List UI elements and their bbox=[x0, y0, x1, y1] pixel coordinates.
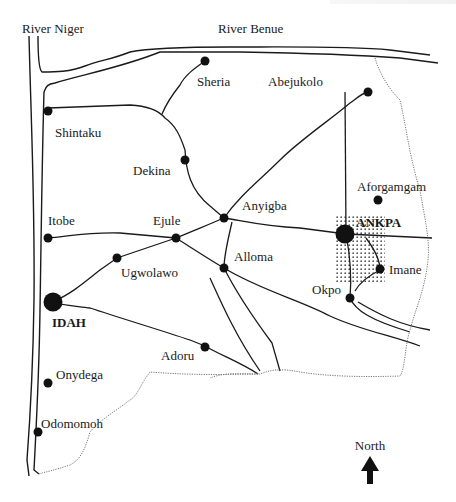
town-dot-adoru bbox=[201, 343, 210, 352]
town-label-alloma: Alloma bbox=[234, 250, 273, 263]
town-label-onydega: Onydega bbox=[56, 368, 103, 381]
town-label-anyigba: Anyigba bbox=[242, 199, 287, 212]
town-label-itobe: Itobe bbox=[48, 214, 75, 227]
town-dot-abejukolo bbox=[364, 88, 373, 97]
town-dot-shintaku bbox=[44, 107, 53, 116]
north-compass: North bbox=[352, 438, 388, 488]
river-niger-label: River Niger bbox=[22, 22, 84, 35]
town-label-abejukolo: Abejukolo bbox=[268, 75, 323, 88]
town-dot-itobe bbox=[44, 234, 53, 243]
town-dot-ejule bbox=[172, 234, 181, 243]
town-dot-anyigba bbox=[220, 214, 229, 223]
town-label-ankpa: ANKPA bbox=[356, 216, 401, 229]
town-label-odomomoh: Odomomoh bbox=[41, 417, 103, 430]
town-dot-okpo bbox=[346, 294, 355, 303]
town-dot-idah bbox=[44, 293, 63, 312]
town-label-idah: IDAH bbox=[52, 316, 86, 329]
town-dot-onydega bbox=[44, 379, 53, 388]
town-dot-dekina bbox=[181, 156, 190, 165]
town-dot-ugwolawo bbox=[113, 254, 122, 263]
town-dot-ankpa bbox=[336, 225, 355, 244]
town-label-ugwolawo: Ugwolawo bbox=[121, 266, 178, 279]
town-label-shintaku: Shintaku bbox=[55, 126, 101, 139]
town-label-dekina: Dekina bbox=[133, 164, 171, 177]
town-label-aforgamgam: Aforgamgam bbox=[357, 180, 426, 193]
north-label: North bbox=[352, 438, 388, 454]
town-dot-aforgamgam bbox=[374, 196, 383, 205]
town-label-sheria: Sheria bbox=[197, 75, 230, 88]
north-arrow-icon bbox=[360, 456, 380, 484]
town-dot-alloma bbox=[220, 264, 229, 273]
town-dot-imane bbox=[376, 265, 385, 274]
town-dot-sheria bbox=[201, 57, 210, 66]
town-label-imane: Imane bbox=[389, 263, 421, 276]
town-label-okpo: Okpo bbox=[312, 283, 341, 296]
town-label-adoru: Adoru bbox=[161, 349, 194, 362]
town-label-ejule: Ejule bbox=[153, 214, 180, 227]
river-benue-label: River Benue bbox=[218, 22, 283, 35]
